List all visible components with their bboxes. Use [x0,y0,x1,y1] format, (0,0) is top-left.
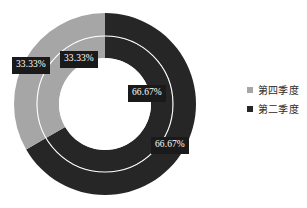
legend-label-q2: 第二季度 [258,101,299,116]
data-label-inner-q4: 33.33% [60,51,98,68]
legend-swatch-icon-q4 [247,87,253,93]
legend-label-q4: 第四季度 [258,82,299,97]
legend-item-q2[interactable]: 第二季度 [247,99,307,118]
data-label-inner-q2: 66.67% [128,85,166,102]
doughnut-hole [59,58,151,150]
doughnut-graphic [0,0,225,208]
legend-item-q4[interactable]: 第四季度 [247,80,307,99]
chart-legend: 第四季度 第二季度 [247,80,307,118]
legend-swatch-icon-q2 [247,106,253,112]
doughnut-plot-area: 33.33% 33.33% 66.67% 66.67% [0,0,225,208]
data-label-outer-q4: 33.33% [12,57,50,74]
doughnut-chart: 33.33% 33.33% 66.67% 66.67% 第四季度 第二季度 [0,0,307,208]
data-label-outer-q2: 66.67% [151,137,189,154]
